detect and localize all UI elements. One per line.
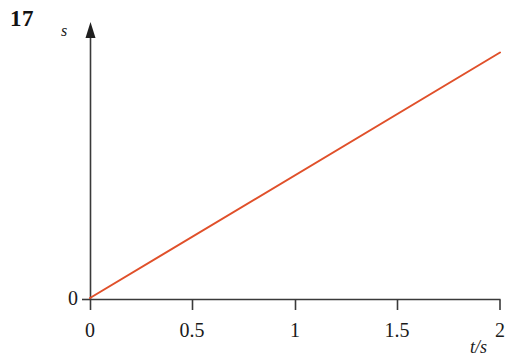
plot-area: [0, 0, 513, 364]
figure-container: 17 s 0 0 0.5 1 1.5 2 t/s: [0, 0, 513, 364]
x-axis: [90, 300, 501, 311]
data-series-line: [90, 53, 500, 299]
y-axis: [82, 22, 96, 300]
y-axis-arrowhead: [86, 22, 96, 38]
